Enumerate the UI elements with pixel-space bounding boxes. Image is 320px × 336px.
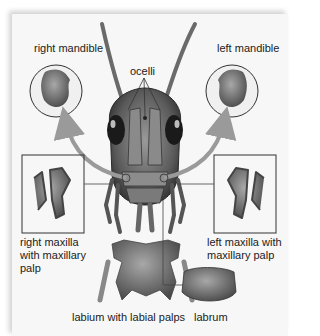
left-compound-eye (165, 115, 183, 145)
face-plate (148, 108, 162, 165)
labium (112, 240, 180, 300)
labrum (182, 268, 236, 302)
label-left-maxilla-line2: maxillary palp (207, 249, 282, 262)
label-right-mandible: right mandible (34, 42, 103, 55)
right-mandible (41, 70, 70, 108)
left-mandible (218, 70, 247, 108)
label-labium: labium with labial palps (72, 311, 185, 324)
label-labrum: labrum (194, 311, 228, 324)
left-maxilla (228, 168, 264, 218)
labrum-in-situ (126, 188, 164, 203)
eye-highlight (111, 120, 116, 128)
label-right-maxilla: right maxilla with maxillary palp (20, 236, 86, 275)
clypeus (122, 172, 168, 186)
label-left-mandible: left mandible (217, 42, 279, 55)
face-plate (128, 108, 142, 165)
right-compound-eye (107, 115, 125, 145)
eye-highlight (175, 120, 180, 128)
right-maxilla (34, 168, 70, 218)
label-right-maxilla-line3: palp (20, 262, 86, 275)
label-right-maxilla-line1: right maxilla (20, 236, 86, 249)
maxilla-in-situ (170, 180, 184, 232)
labium-in-situ (138, 205, 152, 230)
maxilla-in-situ (106, 180, 120, 232)
label-left-maxilla: left maxilla with maxillary palp (207, 236, 282, 262)
label-right-maxilla-line2: with maxillary (20, 249, 86, 262)
label-left-maxilla-line1: left maxilla with (207, 236, 282, 249)
ocellus (143, 116, 147, 120)
label-ocelli: ocelli (130, 65, 155, 78)
